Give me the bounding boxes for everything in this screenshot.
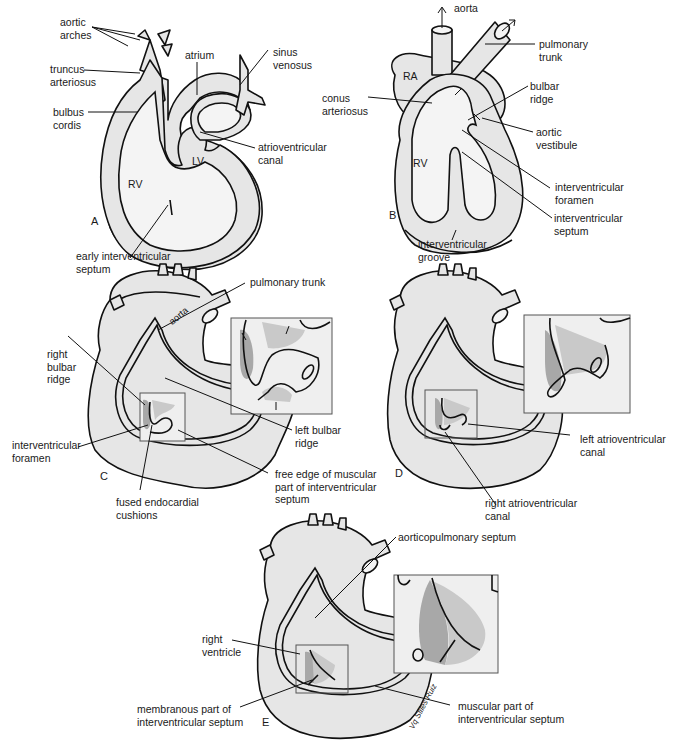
label-membranous-part: membranous part of interventricular sept… [137, 703, 243, 728]
panel-a-heart-tube [101, 30, 265, 269]
panel-letter-c: C [100, 470, 108, 482]
label-aorticopulmonary-septum: aorticopulmonary septum [398, 531, 516, 544]
label-rv-a: RV [128, 178, 142, 191]
label-free-edge-muscular-septum: free edge of muscular part of interventr… [275, 468, 377, 506]
label-pulmonary-trunk-c: pulmonary trunk [250, 276, 325, 289]
label-right-av-canal: right atrioventricular canal [485, 497, 577, 522]
label-bulbar-ridge: bulbar ridge [530, 80, 559, 105]
label-interventricular-foramen-b: interventricular foramen [555, 181, 624, 206]
label-muscular-part: muscular part of interventricular septum [458, 700, 564, 725]
label-fused-endocardial-cushions: fused endocardial cushions [116, 496, 199, 521]
label-right-ventricle: right ventricle [202, 633, 241, 658]
panel-letter-d: D [395, 467, 403, 479]
label-aortic-vestibule: aortic vestibule [536, 126, 577, 151]
label-left-bulbar-ridge: left bulbar ridge [295, 424, 341, 449]
label-interventricular-foramen-c: interventricular foramen [12, 439, 81, 464]
label-rv-b: RV [413, 157, 427, 170]
label-conus-arteriosus: conus arteriosus [322, 92, 368, 117]
label-ra: RA [403, 70, 418, 83]
label-aortic-arches: aortic arches [60, 16, 92, 41]
label-early-interventricular-septum: early interventricular septum [76, 250, 171, 275]
label-interventricular-septum-b: interventricular septum [554, 212, 623, 237]
panel-b-heart [392, 20, 523, 253]
label-left-av-canal: left atrioventricular canal [580, 433, 666, 458]
panel-c-inset [231, 318, 332, 414]
label-aorta-b: aorta [454, 2, 478, 15]
panel-d-inset [524, 315, 630, 413]
panel-e-inset [394, 575, 498, 673]
label-sinus-venosus: sinus venosus [273, 46, 312, 71]
label-interventricular-groove: interventricular groove [418, 238, 487, 263]
panel-letter-e: E [262, 716, 269, 728]
label-pulmonary-trunk-b: pulmonary trunk [539, 38, 588, 63]
aortic-arches-icon [138, 30, 172, 56]
panel-letter-b: B [389, 209, 396, 221]
label-lv-a: LV [192, 155, 204, 168]
label-atrioventricular-canal: atrioventricular canal [258, 141, 327, 166]
label-atrium: atrium [185, 49, 214, 62]
panel-letter-a: A [91, 215, 98, 227]
label-bulbus-cordis: bulbus cordis [53, 106, 84, 131]
label-truncus-arteriosus: truncus arteriosus [50, 63, 96, 88]
label-right-bulbar-ridge: right bulbar ridge [47, 348, 76, 386]
